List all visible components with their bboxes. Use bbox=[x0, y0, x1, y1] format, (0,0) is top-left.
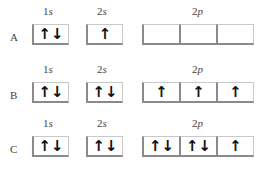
orbital-box-2p-1: ↑↓ bbox=[142, 136, 180, 157]
electron-arrows: ↑↓ bbox=[186, 139, 211, 154]
electron-arrows: ↑ bbox=[229, 139, 242, 154]
label-2p: 2p bbox=[192, 5, 203, 17]
row-label: B bbox=[10, 89, 17, 101]
row-label: C bbox=[10, 143, 17, 155]
label-1s: 1s bbox=[43, 5, 53, 17]
orbital-box-2s: ↑↓ bbox=[86, 136, 123, 157]
label-1s: 1s bbox=[43, 63, 53, 75]
electron-arrows: ↑↓ bbox=[38, 27, 63, 42]
orbital-box-2p-3: ↑ bbox=[216, 82, 254, 103]
label-1s: 1s bbox=[43, 117, 53, 129]
orbital-box-2p-1: ↑ bbox=[142, 82, 180, 103]
electron-arrows: ↑ bbox=[155, 85, 168, 100]
label-2p: 2p bbox=[192, 63, 203, 75]
orbital-box-2p-3: ↑ bbox=[216, 136, 254, 157]
orbital-box-1s: ↑↓ bbox=[32, 82, 69, 103]
row-label: A bbox=[10, 31, 18, 43]
label-2s: 2s bbox=[97, 63, 107, 75]
electron-arrows: ↑↓ bbox=[38, 139, 63, 154]
orbital-box-1s: ↑↓ bbox=[32, 136, 69, 157]
orbital-box-2p-2: ↑ bbox=[179, 82, 217, 103]
electron-arrows: ↑↓ bbox=[149, 139, 174, 154]
orbital-box-2s: ↑ bbox=[86, 24, 123, 45]
electron-arrows: ↑↓ bbox=[92, 139, 117, 154]
electron-arrows: ↑ bbox=[99, 27, 112, 42]
electron-arrows: ↑↓ bbox=[38, 85, 63, 100]
orbital-row-c: 1s 2s 2p C ↑↓ ↑↓ ↑↓ ↑↓ ↑ bbox=[0, 112, 263, 166]
electron-arrows: ↑ bbox=[192, 85, 205, 100]
orbital-box-1s: ↑↓ bbox=[32, 24, 69, 45]
label-2p: 2p bbox=[192, 117, 203, 129]
orbital-box-2p-2: ↑↓ bbox=[179, 136, 217, 157]
orbital-box-2p-1 bbox=[142, 24, 180, 45]
orbital-box-2p-3 bbox=[216, 24, 254, 45]
orbital-box-2s: ↑↓ bbox=[86, 82, 123, 103]
orbital-box-2p-2 bbox=[179, 24, 217, 45]
label-2s: 2s bbox=[97, 5, 107, 17]
electron-arrows: ↑ bbox=[229, 85, 242, 100]
orbital-row-b: 1s 2s 2p B ↑↓ ↑↓ ↑ ↑ ↑ bbox=[0, 58, 263, 112]
label-2s: 2s bbox=[97, 117, 107, 129]
orbital-row-a: 1s 2s 2p A ↑↓ ↑ bbox=[0, 0, 263, 54]
electron-arrows: ↑↓ bbox=[92, 85, 117, 100]
